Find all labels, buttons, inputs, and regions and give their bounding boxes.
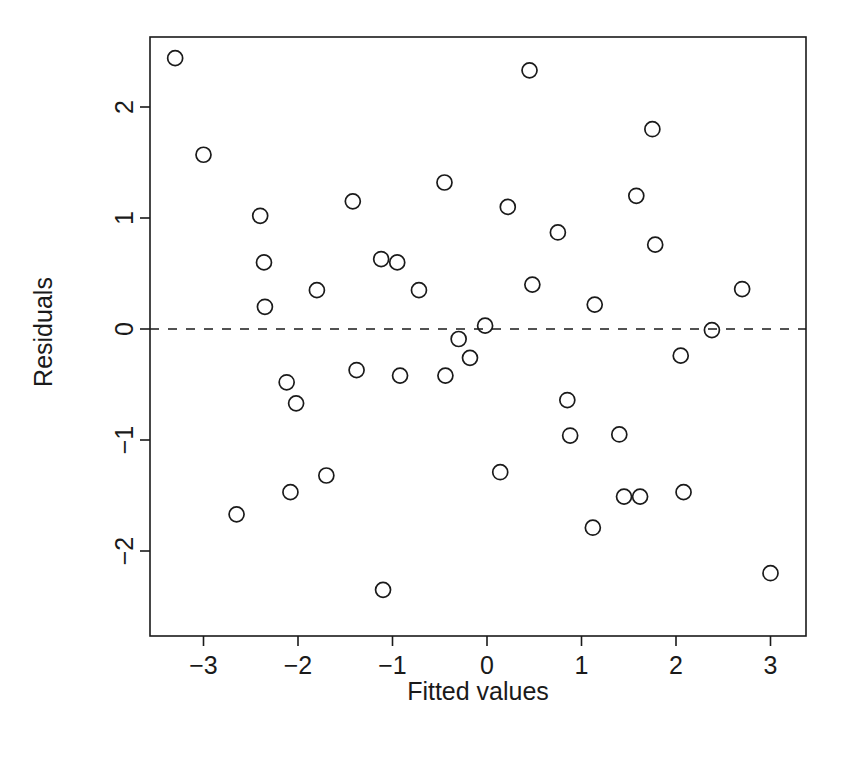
data-point — [500, 199, 515, 214]
data-point — [374, 252, 389, 267]
data-point — [585, 520, 600, 535]
data-point — [437, 175, 452, 190]
x-axis-ticks: −3−2−10123 — [189, 636, 777, 679]
data-point — [633, 489, 648, 504]
data-point — [673, 348, 688, 363]
data-point — [256, 255, 271, 270]
y-tick-label: −1 — [110, 426, 138, 455]
data-point — [168, 51, 183, 66]
data-point — [253, 208, 268, 223]
data-point — [617, 489, 632, 504]
x-tick-label: 3 — [764, 651, 778, 679]
data-point — [704, 323, 719, 338]
data-point — [345, 194, 360, 209]
y-tick-label: −2 — [110, 537, 138, 566]
data-point — [587, 297, 602, 312]
data-point — [309, 283, 324, 298]
y-tick-label: 2 — [110, 100, 138, 114]
x-tick-label: 1 — [575, 651, 589, 679]
data-point — [451, 331, 466, 346]
data-point — [735, 282, 750, 297]
data-point-group — [168, 51, 778, 598]
data-point — [438, 368, 453, 383]
data-point — [289, 396, 304, 411]
data-point — [376, 582, 391, 597]
x-tick-label: −2 — [284, 651, 313, 679]
x-axis-title: Fitted values — [407, 677, 549, 705]
data-point — [196, 147, 211, 162]
data-point — [319, 468, 334, 483]
data-point — [393, 368, 408, 383]
data-point — [563, 428, 578, 443]
data-point — [525, 277, 540, 292]
data-point — [612, 427, 627, 442]
data-point — [283, 485, 298, 500]
data-point — [462, 350, 477, 365]
x-tick-label: 2 — [669, 651, 683, 679]
data-point — [629, 188, 644, 203]
data-point — [522, 63, 537, 78]
x-tick-label: 0 — [480, 651, 494, 679]
data-point — [645, 122, 660, 137]
data-point — [411, 283, 426, 298]
data-point — [493, 465, 508, 480]
data-point — [390, 255, 405, 270]
scatter-plot-canvas: −3−2−10123 −2−1012 Fitted values Residua… — [0, 0, 850, 761]
y-tick-label: 1 — [110, 211, 138, 225]
y-axis-ticks: −2−1012 — [110, 100, 150, 565]
y-tick-label: 0 — [110, 322, 138, 336]
data-point — [648, 237, 663, 252]
x-tick-label: −1 — [378, 651, 407, 679]
data-point — [229, 507, 244, 522]
y-axis-title: Residuals — [29, 277, 57, 387]
data-point — [560, 393, 575, 408]
data-point — [349, 363, 364, 378]
residuals-vs-fitted-plot: −3−2−10123 −2−1012 Fitted values Residua… — [0, 0, 850, 761]
data-point — [676, 485, 691, 500]
data-point — [279, 375, 294, 390]
data-point — [257, 299, 272, 314]
x-tick-label: −3 — [189, 651, 218, 679]
data-point — [763, 566, 778, 581]
data-point — [550, 225, 565, 240]
data-point — [478, 318, 493, 333]
